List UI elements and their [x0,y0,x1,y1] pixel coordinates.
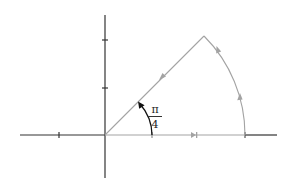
angle-label-numerator: π [148,104,162,117]
axes [20,15,277,178]
arc-arrow-lower-icon [237,93,242,100]
angle-label-denominator: 4 [148,117,162,130]
arrow-bar-icon [196,132,197,138]
contour-diagram [0,0,289,189]
ray-arrow-inward-icon [159,73,166,80]
contour [105,36,245,138]
angle-label: π 4 [148,104,162,130]
contour-arrows [159,46,243,138]
arc-arrow-upper-icon [216,46,221,54]
arrow-right-icon [191,132,196,138]
contour-outer-arc [204,36,245,135]
